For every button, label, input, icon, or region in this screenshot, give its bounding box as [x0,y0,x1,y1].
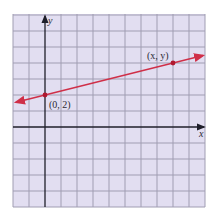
graph-svg: y x (0, 2) (x, y) [0,0,212,219]
x-axis-label: x [198,128,204,139]
y-axis-label: y [47,15,53,26]
point-intercept [43,93,48,98]
point-general-label: (x, y) [147,50,169,62]
coordinate-plane-figure: y x (0, 2) (x, y) [0,0,212,219]
point-intercept-label: (0, 2) [49,99,71,111]
point-general [171,61,176,66]
